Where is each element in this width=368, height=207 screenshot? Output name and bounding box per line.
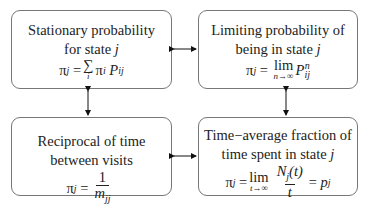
- arrows-layer: [0, 0, 368, 207]
